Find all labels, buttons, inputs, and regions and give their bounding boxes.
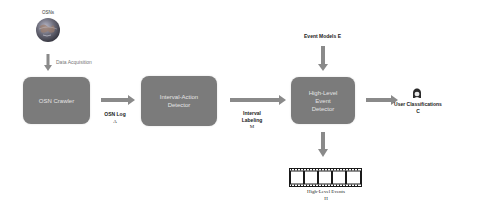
osn-log-arrow xyxy=(101,95,135,105)
osn-log-text: OSN Log xyxy=(104,111,125,117)
interval-labeling-arrow xyxy=(230,95,286,105)
high-level-events-label: High-Level Events H xyxy=(290,189,362,202)
interval-action-detector-box: Interval-Action Detector xyxy=(141,76,217,126)
labeling-symbol: M xyxy=(250,124,254,129)
data-acquisition-label: Data Acquisition xyxy=(56,59,106,66)
osn-log-symbol: A xyxy=(113,119,117,124)
interval-action-line1: Interval-Action xyxy=(160,93,198,101)
osns-label: OSNs xyxy=(33,10,63,17)
osn-crawler-label: OSN Crawler xyxy=(39,97,74,105)
labeling-text: Labeling xyxy=(242,117,263,123)
interval-text: Interval xyxy=(243,110,261,116)
high-level-line2: Event xyxy=(309,97,338,105)
high-level-events-text: High-Level Events xyxy=(307,189,345,194)
film-strip-icon xyxy=(289,168,362,187)
user-classifications-label: User Classifications C xyxy=(392,101,444,114)
event-models-label: Event Models E xyxy=(295,33,350,40)
data-acquisition-arrow xyxy=(44,54,52,72)
user-classifications-text: User Classifications xyxy=(394,101,442,107)
osn-log-label: OSN Log A xyxy=(100,111,130,125)
interval-action-line2: Detector xyxy=(160,101,198,109)
high-level-events-symbol: H xyxy=(324,196,328,201)
high-level-line3: Detector xyxy=(309,105,338,113)
high-level-events-arrow xyxy=(318,132,328,158)
user-classifications-symbol: C xyxy=(416,108,420,114)
high-level-line1: High-Level xyxy=(309,89,338,97)
interval-labeling-label: Interval Labeling M xyxy=(238,110,266,131)
event-models-arrow xyxy=(318,46,328,72)
osn-crawler-box: OSN Crawler xyxy=(23,77,90,124)
user-icon xyxy=(412,88,422,99)
high-level-event-detector-box: High-Level Event Detector xyxy=(291,77,355,124)
globe-icon xyxy=(35,17,61,43)
